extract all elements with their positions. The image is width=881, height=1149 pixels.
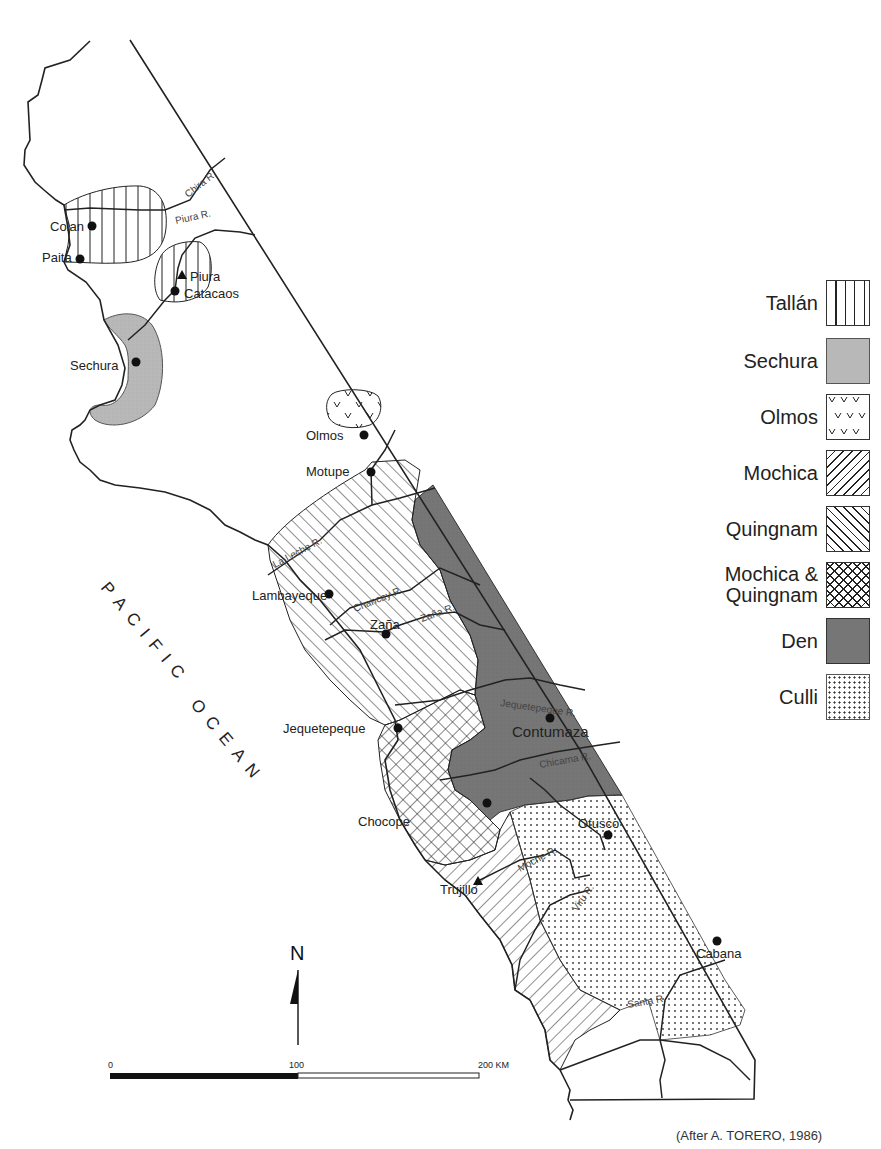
dot-chocope bbox=[483, 799, 492, 808]
label-chocope: Chocope bbox=[358, 814, 410, 829]
legend-label: Culli bbox=[779, 687, 818, 708]
north-arrow: N bbox=[290, 942, 304, 1045]
ocean-label: PACIFIC OCEAN bbox=[97, 578, 269, 788]
dot-olmos bbox=[360, 431, 369, 440]
scale-tick-100: 100 bbox=[289, 1060, 304, 1070]
legend-item-tallan: Tallán bbox=[766, 280, 870, 326]
forward-diagonal-swatch-icon bbox=[826, 450, 870, 496]
crosshatch-swatch-icon bbox=[826, 562, 870, 608]
dot-paita bbox=[76, 255, 85, 264]
label-paita: Paita bbox=[42, 250, 72, 265]
legend-item-mochica: Mochica bbox=[744, 450, 870, 496]
dark-gray-swatch-icon bbox=[826, 618, 870, 664]
label-jequetepeque: Jequetepeque bbox=[283, 721, 365, 736]
scale-tick-0: 0 bbox=[108, 1060, 113, 1070]
dot-otusco bbox=[604, 831, 613, 840]
dot-catacaos bbox=[171, 287, 180, 296]
label-lambayeque: Lambayeque bbox=[252, 588, 327, 603]
dots-swatch-icon bbox=[826, 674, 870, 720]
scale-tick-200: 200 KM bbox=[478, 1060, 509, 1070]
label-otusco: Otusco bbox=[578, 816, 619, 831]
ocean-word-ocean: OCEAN bbox=[187, 695, 269, 788]
dot-contumaza bbox=[546, 714, 555, 723]
north-label: N bbox=[290, 942, 304, 964]
river-santa bbox=[560, 1040, 750, 1080]
label-catacaos: Catacaos bbox=[184, 286, 239, 301]
legend-item-quingnam: Quingnam bbox=[726, 506, 870, 552]
legend-label: Mochica bbox=[744, 463, 818, 484]
label-trujillo: Trujillo bbox=[440, 882, 478, 897]
map-credit: (After A. TORERO, 1986) bbox=[676, 1128, 822, 1143]
legend-label: Olmos bbox=[760, 407, 818, 428]
label-zana: Zaña bbox=[370, 617, 400, 632]
legend-label: Quingnam bbox=[726, 519, 818, 540]
legend-label: Mochica & Quingnam bbox=[725, 564, 818, 606]
ocean-word-pacific: PACIFIC bbox=[97, 578, 194, 689]
legend-item-culli: Culli bbox=[779, 674, 870, 720]
label-sechura: Sechura bbox=[70, 358, 119, 373]
vertical-lines-swatch-icon bbox=[826, 280, 870, 326]
legend-label: Den bbox=[781, 631, 818, 652]
north-arrow-icon bbox=[290, 970, 298, 1004]
label-contumaza: Contumaza bbox=[512, 723, 589, 740]
label-motupe: Motupe bbox=[306, 464, 349, 479]
dot-cabana bbox=[713, 937, 722, 946]
scale-bar: 0 100 200 KM bbox=[108, 1060, 509, 1079]
dot-motupe bbox=[367, 468, 376, 477]
light-gray-swatch-icon bbox=[826, 338, 870, 384]
legend-label: Tallán bbox=[766, 293, 818, 314]
label-piura-river: Piura R. bbox=[174, 208, 212, 226]
scale-segment-dark bbox=[110, 1073, 298, 1079]
legend-label: Sechura bbox=[744, 351, 819, 372]
v-marks-swatch-icon bbox=[826, 394, 870, 440]
label-cabana: Cabana bbox=[696, 946, 742, 961]
back-diagonal-swatch-icon bbox=[826, 506, 870, 552]
dot-sechura bbox=[132, 358, 141, 367]
label-colan: Colan bbox=[50, 219, 84, 234]
label-piura: Piura bbox=[190, 269, 221, 284]
legend-item-sechura: Sechura bbox=[744, 338, 871, 384]
label-olmos: Olmos bbox=[306, 428, 344, 443]
river-south bbox=[660, 1040, 665, 1098]
legend-item-olmos: Olmos bbox=[760, 394, 870, 440]
scale-segment-light bbox=[298, 1073, 479, 1078]
legend-item-den: Den bbox=[781, 618, 870, 664]
label-chira-river: Chira R. bbox=[182, 168, 218, 199]
dot-colan bbox=[88, 222, 97, 231]
legend-item-mochica-quingnam: Mochica & Quingnam bbox=[725, 562, 870, 608]
dot-jequetepeque bbox=[394, 724, 403, 733]
